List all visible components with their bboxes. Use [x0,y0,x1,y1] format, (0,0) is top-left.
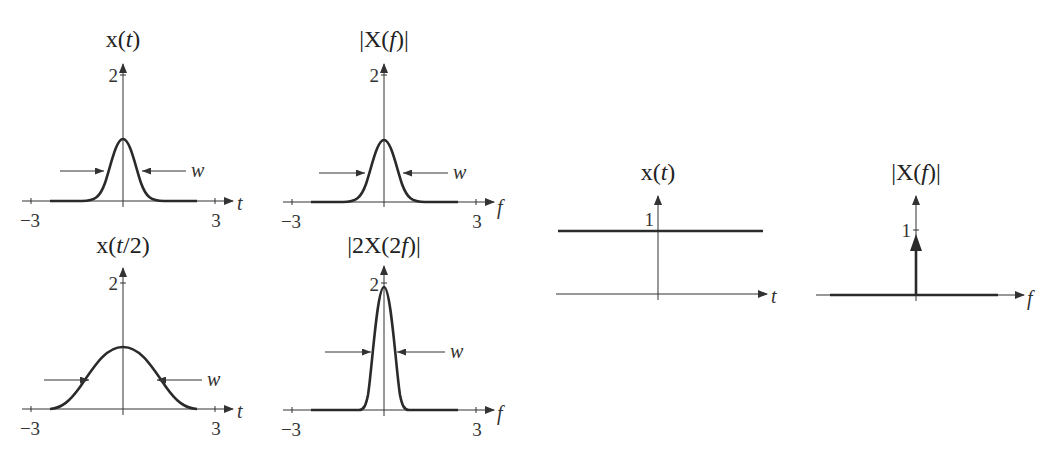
panel-title: |2X(2f)| [347,232,421,258]
panel-title: |X(f)| [891,159,941,185]
panel-impulse-X-f: |X(f)| 1 f [816,159,1035,310]
panel-constant-x-t: x(t) 1 t [556,159,777,307]
panel-2X-2f: |2X(2f)| 2 −3 3 f w [281,232,505,440]
x-max-label: 3 [211,210,221,231]
panel-x-t: x(t) 2 −3 3 t w [20,26,243,231]
width-label: w [450,340,464,362]
x-min-label: −3 [281,419,301,440]
panel-title: x(t/2) [96,232,149,258]
width-label: w [207,368,221,390]
panel-title: x(t) [106,26,141,52]
x-min-label: −3 [20,210,40,231]
y-tick-label: 1 [902,220,912,241]
impulse-arrow-icon [910,234,922,251]
x-axis-label: f [497,402,505,425]
y-tick-label: 2 [370,274,380,295]
width-label: w [191,159,205,181]
x-min-label: −3 [20,418,40,439]
x-axis-label: t [237,192,243,214]
x-max-label: 3 [472,419,482,440]
x-max-label: 3 [211,418,221,439]
fourier-scaling-figure: x(t) 2 −3 3 t w |X(f)| 2 −3 3 f w x(t/2) [0,0,1044,454]
x-axis-label: f [497,196,505,219]
x-max-label: 3 [472,211,482,232]
x-axis-label: t [237,400,243,422]
y-tick-label: 1 [645,209,655,230]
y-tick-label: 2 [370,65,380,86]
panel-X-f: |X(f)| 2 −3 3 f w [281,26,505,232]
x-axis-label: f [1027,287,1035,310]
y-tick-label: 2 [109,65,119,86]
x-min-label: −3 [281,211,301,232]
width-label: w [453,161,467,183]
panel-title: x(t) [641,159,676,185]
y-tick-label: 2 [109,273,119,294]
x-axis-label: t [771,285,777,307]
panel-title: |X(f)| [359,26,409,52]
panel-x-t-half: x(t/2) 2 −3 3 t w [20,232,243,439]
